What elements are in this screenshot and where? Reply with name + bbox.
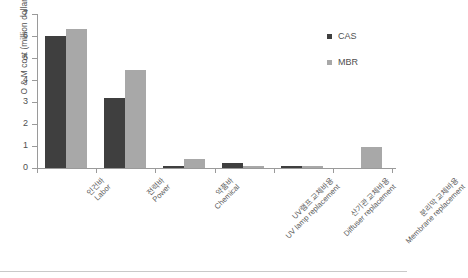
bottom-divider [0, 271, 407, 272]
legend-swatch-icon-mbr [327, 60, 332, 65]
bar-cas-3 [222, 163, 243, 169]
x-axis-separator-tick [392, 169, 393, 173]
category-label-2: 약품바Chemical [206, 176, 241, 211]
bar-cas-1 [104, 98, 125, 168]
legend-label-cas: CAS [338, 31, 357, 41]
category-label-ko: UV램프 교체바용 [277, 176, 335, 234]
bar-cas-0 [45, 36, 66, 168]
x-axis-separator-tick [215, 169, 216, 173]
y-tick-label: 0 [6, 163, 28, 172]
category-label-1: 전력바Power [144, 176, 172, 204]
legend-label-mbr: MBR [338, 57, 358, 67]
bar-cas-2 [163, 166, 184, 168]
legend-item-mbr: MBR [327, 55, 358, 69]
category-label-3: UV램프 교체바용UV lamp replacement [277, 176, 342, 241]
y-tick-label: 7 [6, 9, 28, 18]
y-tick-label: 6 [6, 31, 28, 40]
legend-item-cas: CAS [327, 29, 358, 43]
x-axis-separator-tick [37, 169, 38, 173]
x-axis-separator-tick [333, 169, 334, 173]
bar-mbr-1 [125, 70, 146, 168]
bar-mbr-2 [184, 159, 205, 168]
category-label-4: 산기관 교체바용Diffuser replacement [336, 176, 398, 238]
y-tick-label: 3 [6, 97, 28, 106]
category-label-ko: 분리막 교체바용 [398, 176, 461, 239]
category-label-5: 분리막 교체바용Membrane replacement [398, 176, 468, 246]
bar-mbr-3 [243, 166, 264, 168]
x-axis-separator-tick [96, 169, 97, 173]
y-tick-label: 2 [6, 119, 28, 128]
category-label-0: 인건바Labor [85, 176, 113, 204]
y-tick-label: 1 [6, 141, 28, 150]
x-axis-separator-tick [274, 169, 275, 173]
category-label-en: Membrane replacement [404, 183, 467, 246]
x-axis-line [37, 168, 396, 169]
x-axis-separator-tick [155, 169, 156, 173]
legend-swatch-icon-cas [327, 34, 332, 39]
legend: CAS MBR [327, 29, 358, 81]
y-tick-label: 5 [6, 53, 28, 62]
bar-mbr-0 [66, 29, 87, 168]
bar-cas-4 [281, 166, 302, 168]
bar-mbr-5 [361, 147, 382, 168]
bar-mbr-4 [302, 166, 323, 168]
y-tick-label: 4 [6, 75, 28, 84]
category-label-ko: 산기관 교체바용 [336, 176, 392, 232]
